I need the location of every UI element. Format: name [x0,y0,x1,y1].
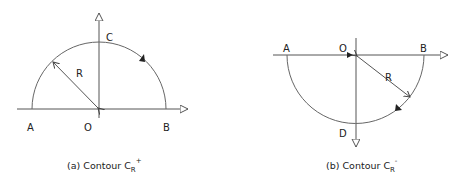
label-B: B [163,122,170,133]
caption-a: (a) Contour CR+ [67,157,142,174]
radius-arrow-b [357,56,410,97]
label-O: O [339,43,347,54]
label-A: A [283,43,290,54]
label-R: R [76,68,83,79]
caption-b: (b) Contour CR- [326,157,398,174]
label-O: O [84,122,92,133]
label-C: C [106,32,113,43]
direction-arrow-icon [395,104,402,111]
direction-arrow-icon [139,54,145,62]
label-R: R [385,72,392,83]
label-A: A [27,122,34,133]
label-D: D [339,128,347,139]
axis-arrow-icon [347,52,353,58]
figure-b: A O B D R (b) Contour CR- [273,38,448,174]
contour-diagrams: A O B C R (a) Contour CR+ A O B D R (b) … [0,0,470,189]
label-B: B [420,43,427,54]
figure-a: A O B C R (a) Contour CR+ [17,13,188,174]
